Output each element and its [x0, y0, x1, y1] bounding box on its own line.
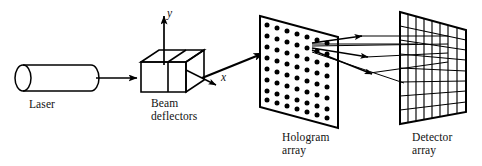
figure-canvas: Laser Beam deflectors Hologram array Det… [0, 0, 482, 166]
laser-label: Laser [29, 98, 55, 111]
detector-grid-array-icon [400, 14, 466, 122]
laser-cylinder-icon [15, 65, 99, 91]
y-axis-label: y [167, 7, 172, 19]
detector-array-label: Detector array [412, 131, 452, 157]
beam-deflectors-label: Beam deflectors [151, 97, 197, 123]
beam-deflector-box-icon [141, 50, 204, 92]
diagram-svg [0, 0, 482, 166]
hologram-array-label: Hologram array [282, 131, 329, 157]
x-axis-label: x [221, 71, 226, 83]
